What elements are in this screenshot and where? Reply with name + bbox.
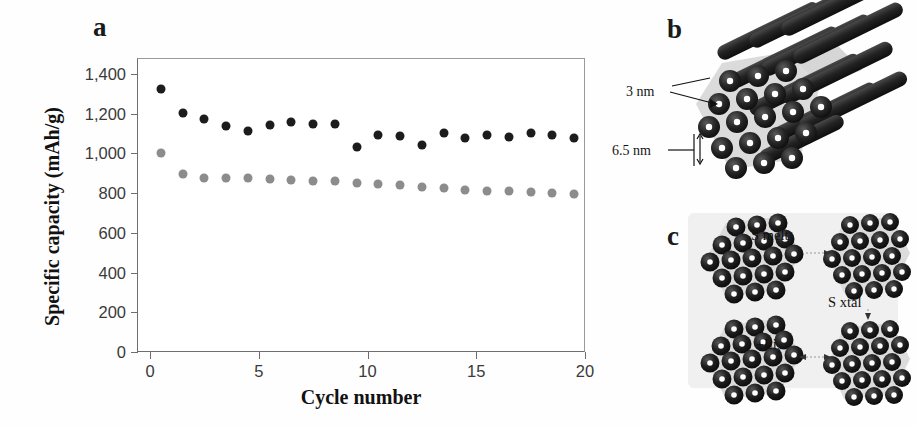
data-point-discharge-capacity <box>352 143 361 152</box>
y-axis-tick <box>131 193 138 194</box>
data-point-discharge-capacity <box>548 131 557 140</box>
data-point-charge-capacity <box>461 185 470 194</box>
data-point-discharge-capacity <box>222 121 231 130</box>
y-axis-tick-label: 0 <box>66 343 126 362</box>
x-axis-tick <box>150 352 151 359</box>
label-lix: ±Lix <box>756 336 782 355</box>
x-axis-tick-label: 15 <box>451 362 501 381</box>
y-axis-tick-label: 1,400 <box>66 64 126 83</box>
y-axis-tick-label: 600 <box>66 223 126 242</box>
y-axis-tick-label: 800 <box>66 184 126 203</box>
data-point-discharge-capacity <box>200 114 209 123</box>
y-axis-tick <box>131 74 138 75</box>
y-axis-tick <box>131 114 138 115</box>
panel-a-chart: a Specific capacity (mAh/g) 020040060080… <box>0 0 610 426</box>
data-point-charge-capacity <box>243 174 252 183</box>
data-point-charge-capacity <box>178 169 187 178</box>
data-point-charge-capacity <box>200 174 209 183</box>
label-lix-subscript: x <box>777 344 782 355</box>
y-axis-tick <box>131 273 138 274</box>
data-point-discharge-capacity <box>178 108 187 117</box>
y-axis-tick <box>131 312 138 313</box>
y-axis-tick <box>131 352 138 353</box>
data-point-charge-capacity <box>374 180 383 189</box>
x-axis-tick-label: 5 <box>234 362 284 381</box>
data-point-discharge-capacity <box>570 134 579 143</box>
data-point-discharge-capacity <box>287 117 296 126</box>
y-axis-tick-label: 1,000 <box>66 144 126 163</box>
figure-root: a Specific capacity (mAh/g) 020040060080… <box>0 0 917 426</box>
data-point-discharge-capacity <box>461 134 470 143</box>
data-point-charge-capacity <box>287 175 296 184</box>
data-point-discharge-capacity <box>417 141 426 150</box>
data-point-discharge-capacity <box>309 119 318 128</box>
data-point-charge-capacity <box>439 184 448 193</box>
data-point-discharge-capacity <box>374 131 383 140</box>
data-point-charge-capacity <box>548 189 557 198</box>
data-point-discharge-capacity <box>243 126 252 135</box>
x-axis-tick-label: 10 <box>343 362 393 381</box>
label-s-melt: S melt <box>751 227 788 244</box>
data-point-discharge-capacity <box>156 84 165 93</box>
panel-b-schematic: b <box>610 0 917 205</box>
x-axis-tick-label: 20 <box>560 362 610 381</box>
data-point-charge-capacity <box>504 187 513 196</box>
x-axis-tick <box>585 352 586 359</box>
x-axis-tick <box>368 352 369 359</box>
label-s-xtal: S xtal <box>828 294 861 311</box>
data-point-charge-capacity <box>570 190 579 199</box>
y-axis-tick-label: 400 <box>66 263 126 282</box>
x-axis-tick-label: 0 <box>125 362 175 381</box>
data-point-charge-capacity <box>330 176 339 185</box>
bracket-6p5nm <box>668 134 703 166</box>
data-point-discharge-capacity <box>439 129 448 138</box>
data-point-charge-capacity <box>265 175 274 184</box>
y-axis-tick <box>131 153 138 154</box>
x-axis-tick <box>259 352 260 359</box>
data-point-charge-capacity <box>309 176 318 185</box>
x-axis-tick <box>476 352 477 359</box>
panel-c-schematic: c <box>610 205 917 426</box>
x-axis-title: Cycle number <box>137 386 585 409</box>
dimension-label-spacing: 6.5 nm <box>612 143 651 159</box>
y-axis-tick-label: 1,200 <box>66 104 126 123</box>
data-point-discharge-capacity <box>483 131 492 140</box>
data-point-charge-capacity <box>526 188 535 197</box>
y-axis-tick-label: 200 <box>66 303 126 322</box>
data-point-charge-capacity <box>156 149 165 158</box>
data-point-charge-capacity <box>396 181 405 190</box>
plot-area <box>137 58 585 352</box>
dimension-label-pore: 3 nm <box>626 84 654 100</box>
label-lix-main: ±Li <box>756 336 777 352</box>
y-axis-tick-labels: 02004006008001,0001,2001,400 <box>62 0 126 426</box>
data-point-charge-capacity <box>222 173 231 182</box>
data-point-discharge-capacity <box>265 120 274 129</box>
y-axis-title: Specific capacity (mAh/g) <box>41 67 64 367</box>
data-point-discharge-capacity <box>504 133 513 142</box>
data-point-charge-capacity <box>483 186 492 195</box>
data-point-charge-capacity <box>352 179 361 188</box>
data-point-charge-capacity <box>417 183 426 192</box>
data-point-discharge-capacity <box>526 129 535 138</box>
data-point-discharge-capacity <box>330 119 339 128</box>
data-point-discharge-capacity <box>396 132 405 141</box>
y-axis-tick <box>131 233 138 234</box>
mesoporous-carbon-rod-diagram <box>610 0 917 205</box>
